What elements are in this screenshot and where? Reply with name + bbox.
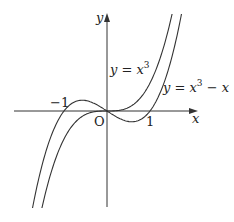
y-axis-label: y bbox=[95, 10, 104, 25]
curve-label-x-cubed-minus-x: y = x3 − x bbox=[162, 78, 230, 95]
cubic-graph-figure: y x O 1 −1 y = x3 y = x3 − x bbox=[0, 0, 234, 222]
y-axis-arrow-icon bbox=[104, 13, 110, 22]
tick-label-minus-1: −1 bbox=[50, 95, 69, 110]
tick-label-1: 1 bbox=[146, 114, 154, 129]
x-axis-label: x bbox=[192, 111, 200, 126]
curve-label-x-cubed: y = x3 bbox=[109, 60, 150, 77]
origin-label: O bbox=[94, 114, 105, 129]
